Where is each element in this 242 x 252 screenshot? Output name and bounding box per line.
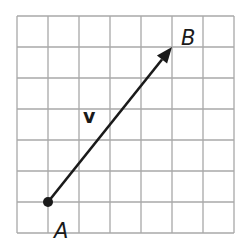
point-a-dot [43,197,53,207]
vector-v-label: v [83,105,96,127]
point-b-label: B [181,26,195,50]
vector-grid-diagram: B A v [0,0,242,252]
vector-v-arrow [48,59,162,202]
point-a-label: A [52,219,68,243]
